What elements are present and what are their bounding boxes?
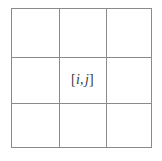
close-bracket: ] bbox=[89, 73, 94, 87]
center-cell-index-label: [i,j] bbox=[59, 57, 106, 103]
grid-diagram-figure: [i,j] bbox=[0, 0, 162, 161]
